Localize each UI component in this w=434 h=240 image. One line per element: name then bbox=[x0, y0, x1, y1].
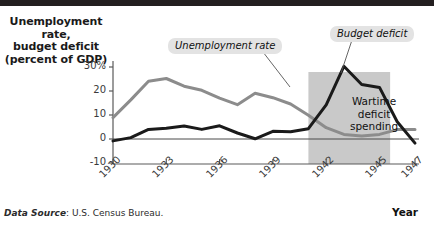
callout-budget-deficit: Budget deficit bbox=[330, 26, 414, 42]
y-tick-label-neg10: -10 bbox=[72, 156, 106, 167]
wartime-label-line1: Wartime bbox=[337, 95, 411, 108]
y-tick-label-0: 0 bbox=[72, 132, 106, 143]
wartime-label-line2: deficit bbox=[337, 108, 411, 121]
callout-unemployment-rate: Unemployment rate bbox=[168, 38, 282, 54]
y-tick-label-20: 20 bbox=[72, 84, 106, 95]
x-axis-title: Year bbox=[392, 206, 418, 218]
data-source-label: Data Source bbox=[4, 208, 66, 218]
y-tick-label-10: 10 bbox=[72, 108, 106, 119]
data-source-text: : U.S. Census Bureau. bbox=[66, 208, 163, 218]
wartime-deficit-spending-label: Wartime deficit spending bbox=[337, 95, 411, 133]
data-source-note: Data Source: U.S. Census Bureau. bbox=[4, 208, 163, 218]
wartime-label-line3: spending bbox=[337, 120, 411, 133]
y-tick-label-30: 30% bbox=[72, 60, 106, 71]
